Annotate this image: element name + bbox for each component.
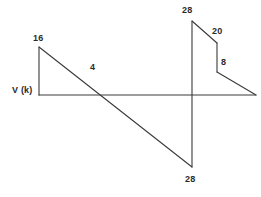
label-right-peak: 28 bbox=[182, 5, 192, 15]
label-right-step-upper: 20 bbox=[212, 26, 222, 36]
label-zero-crossing: 4 bbox=[90, 62, 95, 72]
label-right-step-lower: 8 bbox=[221, 57, 226, 67]
y-axis-label: V (k) bbox=[12, 85, 33, 95]
shear-diagram-figure: V (k) 16 4 28 20 8 28 bbox=[0, 0, 261, 197]
label-bottom-trough: 28 bbox=[185, 174, 195, 184]
left-descending-slope-line bbox=[39, 47, 192, 167]
right-lower-slope-line bbox=[217, 72, 256, 95]
label-left-peak: 16 bbox=[33, 33, 43, 43]
